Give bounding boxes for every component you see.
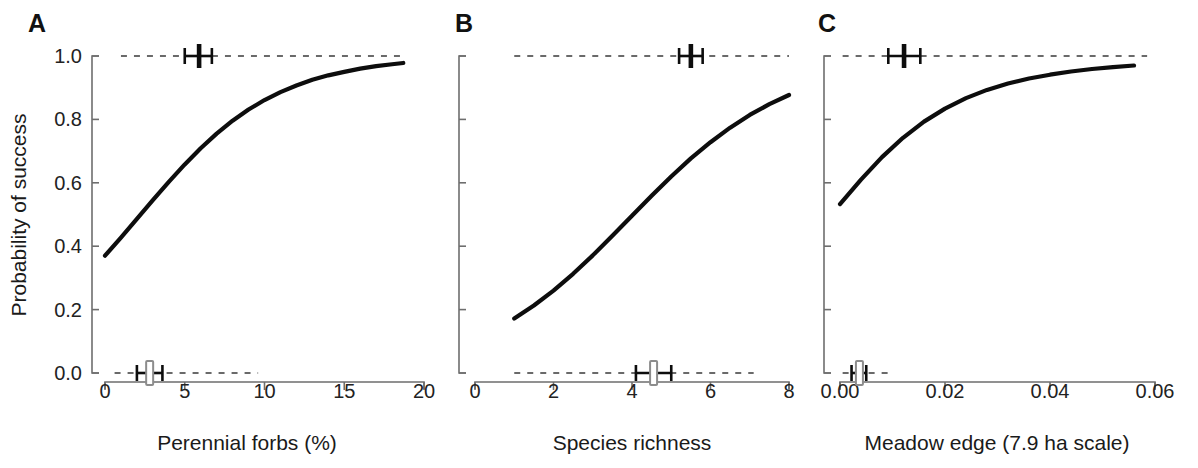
x-tick-label-3: 6 xyxy=(705,380,716,402)
panel-c-y-axis xyxy=(824,56,831,373)
y-tick-label-3: 0.6 xyxy=(54,172,82,194)
x-tick-label-3: 0.06 xyxy=(1136,380,1175,402)
x-tick-label-3: 15 xyxy=(333,380,355,402)
panel-a-y-tick-labels: 0.00.20.40.60.81.0 xyxy=(54,45,82,384)
x-tick-label-0: 0.00 xyxy=(821,380,860,402)
x-tick-label-2: 4 xyxy=(626,380,637,402)
figure-svg: A 0.00.20.40.60.81.0 05101520 Perennial … xyxy=(0,0,1198,468)
panel-a-y-ticks xyxy=(92,56,99,373)
panel-b-x-tick-labels: 02468 xyxy=(469,380,794,402)
panel-c-letter: C xyxy=(818,9,836,37)
panel-a-fit-curve xyxy=(105,63,403,256)
panel-b-y-ticks xyxy=(459,56,466,373)
rug-bottom-mean-marker xyxy=(650,361,657,385)
y-tick-label-0: 0.0 xyxy=(54,362,82,384)
y-tick-label-1: 0.2 xyxy=(54,299,82,321)
panel-c-fit-curve xyxy=(840,66,1134,205)
y-axis-title: Probability of success xyxy=(7,113,30,316)
y-tick-label-2: 0.4 xyxy=(54,235,82,257)
panel-c-x-axis-title: Meadow edge (7.9 ha scale) xyxy=(865,431,1130,454)
panel-a-y-axis xyxy=(92,56,99,373)
panel-b-letter: B xyxy=(455,9,473,37)
panel-a: A 0.00.20.40.60.81.0 05101520 Perennial … xyxy=(28,9,435,454)
panel-a-rug-markers xyxy=(115,44,404,385)
panel-c-rug-markers xyxy=(843,44,1148,385)
panel-c-x-axis xyxy=(840,382,1155,389)
panel-c-y-ticks xyxy=(824,56,831,373)
panel-b-y-axis xyxy=(459,56,466,373)
panel-c: C 0.000.020.040.06 Meadow edge (7.9 ha s… xyxy=(818,9,1174,454)
x-tick-label-4: 8 xyxy=(783,380,794,402)
panel-b: B 02468 Species richness xyxy=(455,9,795,454)
x-tick-label-2: 0.04 xyxy=(1031,380,1070,402)
x-tick-label-1: 0.02 xyxy=(926,380,965,402)
panel-a-x-axis-title: Perennial forbs (%) xyxy=(157,431,337,454)
panel-b-x-axis-title: Species richness xyxy=(553,431,712,454)
x-tick-label-0: 0 xyxy=(99,380,110,402)
panel-a-letter: A xyxy=(28,9,46,37)
rug-bottom-mean-marker xyxy=(856,361,863,385)
x-tick-label-1: 2 xyxy=(548,380,559,402)
y-tick-label-4: 0.8 xyxy=(54,108,82,130)
panel-b-fit-curve xyxy=(514,95,789,318)
panel-c-x-tick-labels: 0.000.020.040.06 xyxy=(821,380,1175,402)
panel-b-rug-markers xyxy=(514,44,789,385)
x-tick-label-0: 0 xyxy=(469,380,480,402)
rug-bottom-mean-marker xyxy=(146,361,153,385)
x-tick-label-4: 20 xyxy=(413,380,435,402)
y-tick-label-5: 1.0 xyxy=(54,45,82,67)
panel-c-x-ticks xyxy=(840,382,1155,390)
x-tick-label-2: 10 xyxy=(253,380,275,402)
figure-container: A 0.00.20.40.60.81.0 05101520 Perennial … xyxy=(0,0,1198,468)
x-tick-label-1: 5 xyxy=(179,380,190,402)
